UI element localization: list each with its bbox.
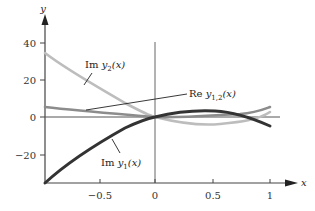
axes	[42, 14, 299, 187]
y-tick-label: 20	[23, 75, 36, 86]
y-tick-label: 0	[30, 112, 36, 123]
y-axis-label: y	[39, 3, 46, 14]
x-axis-arrow-icon	[285, 180, 298, 187]
annotation-im-y1: Im y1(x)	[101, 157, 141, 171]
x-tick-label: 1	[267, 190, 273, 201]
y-ticks	[40, 43, 45, 155]
annotation-im-y2: Im y2(x)	[85, 59, 125, 73]
y-tick-label: −20	[15, 150, 36, 161]
y-tick-label: 40	[23, 38, 36, 49]
chart: 40 20 0 −20 −0.5 0 0.5 1 y x Im y2(x) Re…	[0, 0, 315, 211]
x-axis-label: x	[301, 177, 307, 188]
x-tick-label: 0	[152, 190, 158, 201]
leader-im-y1	[112, 139, 120, 153]
annotation-re-y12: Re y1,2(x)	[189, 88, 236, 102]
x-tick-label: −0.5	[88, 190, 112, 201]
x-tick-label: 0.5	[205, 190, 221, 201]
y-axis-arrow-icon	[42, 14, 49, 25]
